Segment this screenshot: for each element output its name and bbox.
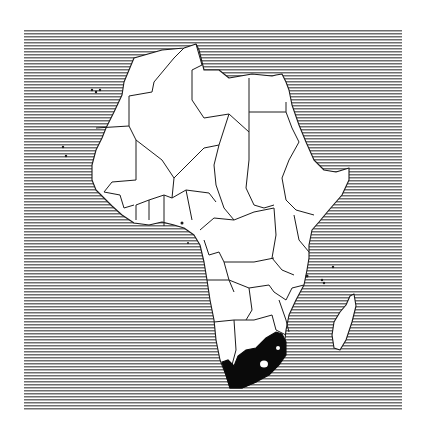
canary-islands-dot xyxy=(91,89,93,91)
sao-tome-dot xyxy=(187,242,189,244)
seychelles-dot xyxy=(332,266,334,268)
comoros-dot xyxy=(323,282,325,284)
africa-map: Map of Africa with political borders Sou… xyxy=(24,30,402,410)
canary-islands-dot xyxy=(95,91,97,93)
cape-verde-dot xyxy=(62,146,64,148)
canary-islands-dot xyxy=(99,89,101,91)
map-caption: Map of Africa with political borders xyxy=(24,410,25,411)
country-lesotho xyxy=(260,361,268,368)
cape-verde-dot xyxy=(65,155,67,157)
map-canvas xyxy=(24,30,402,410)
country-swaziland xyxy=(276,346,280,350)
highlighted-country-label: South Africa xyxy=(24,410,25,411)
zanzibar-dot xyxy=(306,275,309,278)
comoros-dot xyxy=(321,279,323,281)
bioko-dot xyxy=(181,222,184,225)
